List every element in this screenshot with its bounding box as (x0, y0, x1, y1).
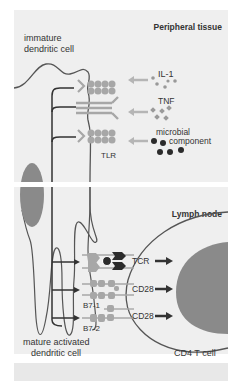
dendritic-cell-nucleus (20, 163, 44, 227)
immature-cell-label-2: dendritic cell (24, 44, 74, 54)
b7-1-label: B7-1 (83, 301, 100, 310)
il1-label: IL-1 (158, 69, 174, 79)
cd28-label-2: CD28 (132, 311, 154, 321)
bottom-bar (14, 363, 228, 381)
tnf-label: TNF (158, 96, 175, 106)
mature-cell-label: mature activated (23, 337, 90, 347)
component-label: component (169, 136, 212, 146)
panel-title-lymph: Lymph node (172, 209, 222, 219)
dendritic-cell-activation-diagram: Peripheral tissue Lymph node immature de… (0, 0, 242, 392)
tcr-label: TCR (132, 256, 149, 266)
b7-2-label: B7-2 (83, 324, 100, 333)
panel-title-peripheral: Peripheral tissue (153, 22, 222, 32)
tlr-label: TLR (101, 151, 116, 160)
t-cell-label: CD4 T cell (174, 348, 216, 358)
cd28-label-1: CD28 (132, 284, 154, 294)
immature-cell-label: immature (24, 33, 62, 43)
mature-cell-label-2: dendritic cell (31, 348, 81, 358)
